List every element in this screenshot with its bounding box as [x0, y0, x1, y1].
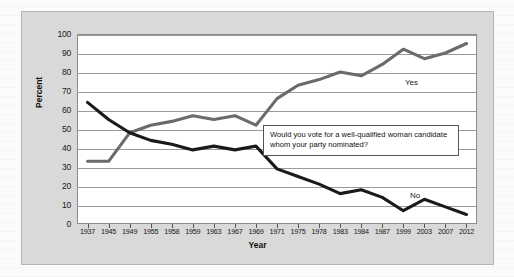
x-tick-label: 1967: [227, 227, 242, 236]
poll-question-annotation: Would you vote for a well-qualified woma…: [263, 125, 459, 156]
y-tick-label: 30: [43, 162, 71, 172]
x-tick-label: 2003: [417, 227, 432, 236]
x-tick-label: 1959: [185, 227, 200, 236]
x-tick-label: 2007: [438, 227, 453, 236]
y-tick-label: 100: [43, 29, 71, 39]
x-tick-label: 1999: [396, 227, 411, 236]
chart-figure: Percent Year 1009080706050403020100 1937…: [21, 11, 494, 265]
x-tick-label: 1984: [354, 227, 369, 236]
series-label-no: No: [410, 191, 420, 200]
y-tick-label: 20: [43, 181, 71, 191]
x-tick-label: 1963: [206, 227, 221, 236]
x-tick-label: 1975: [291, 227, 306, 236]
x-axis-title: Year: [22, 240, 493, 250]
y-tick-label: 0: [43, 219, 71, 229]
x-tick-label: 1949: [122, 227, 137, 236]
x-tick-label: 1971: [269, 227, 284, 236]
chart-page: Percent Year 1009080706050403020100 1937…: [0, 0, 514, 277]
x-tick-label: 1958: [164, 227, 179, 236]
y-tick-label: 40: [43, 143, 71, 153]
y-tick-label: 80: [43, 67, 71, 77]
series-label-yes: Yes: [405, 78, 418, 87]
y-tick-label: 90: [43, 48, 71, 58]
x-tick-label: 1987: [375, 227, 390, 236]
x-tick-label: 1969: [248, 227, 263, 236]
x-tick-label: 1983: [333, 227, 348, 236]
x-tick-label: 2012: [459, 227, 474, 236]
x-tick-label: 1955: [143, 227, 158, 236]
y-tick-label: 50: [43, 124, 71, 134]
x-tick-label: 1978: [312, 227, 327, 236]
y-tick-label: 10: [43, 200, 71, 210]
x-tick-label: 1937: [80, 227, 95, 236]
x-tick-label: 1945: [101, 227, 116, 236]
y-tick-label: 70: [43, 86, 71, 96]
y-tick-label: 60: [43, 105, 71, 115]
